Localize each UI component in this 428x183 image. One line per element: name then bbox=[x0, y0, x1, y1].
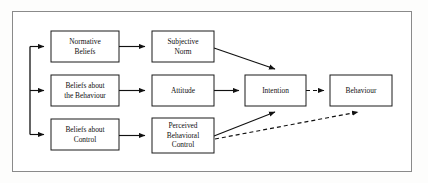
node-label-line: Behaviour bbox=[346, 86, 377, 95]
node-label-line: Attitude bbox=[171, 86, 196, 95]
node-perceived-behavioral-control[interactable]: Perceived Behavioral Control bbox=[152, 118, 214, 153]
node-intention[interactable]: Intention bbox=[245, 75, 306, 106]
node-beliefs-about-behaviour[interactable]: Beliefs about the Behaviour bbox=[51, 75, 119, 106]
figure-container: Normative Beliefs Beliefs about the Beha… bbox=[0, 0, 428, 183]
node-label-line: Beliefs about bbox=[65, 125, 105, 134]
node-label-line: Control bbox=[172, 140, 195, 149]
node-label-line: Normative bbox=[69, 37, 101, 46]
node-label-line: Norm bbox=[174, 47, 191, 56]
node-label-line: Perceived bbox=[168, 121, 197, 130]
node-label-line: Subjective bbox=[167, 37, 199, 46]
node-attitude[interactable]: Attitude bbox=[152, 75, 214, 106]
diagram-canvas: Normative Beliefs Beliefs about the Beha… bbox=[0, 0, 428, 183]
edge-trunk-bracket bbox=[30, 47, 44, 135]
node-label-line: Beliefs about bbox=[65, 81, 105, 90]
node-label-line: the Behaviour bbox=[64, 91, 106, 100]
node-label-line: Behavioral bbox=[167, 131, 199, 140]
edge-perceived-behavioral-control-to-intention bbox=[214, 112, 275, 136]
edge-subjective-norm-to-intention bbox=[214, 48, 275, 69]
node-behaviour[interactable]: Behaviour bbox=[330, 75, 392, 106]
edge-perceived-behavioral-control-to-behaviour bbox=[215, 112, 358, 139]
node-label-line: Control bbox=[74, 135, 97, 144]
node-normative-beliefs[interactable]: Normative Beliefs bbox=[51, 31, 119, 62]
node-label-line: Intention bbox=[262, 86, 289, 95]
node-beliefs-about-control[interactable]: Beliefs about Control bbox=[51, 119, 119, 150]
node-label-line: Beliefs bbox=[75, 47, 96, 56]
node-subjective-norm[interactable]: Subjective Norm bbox=[152, 31, 214, 62]
